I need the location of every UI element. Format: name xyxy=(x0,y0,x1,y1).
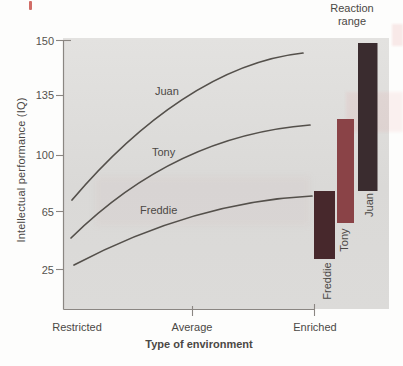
tony-reaction-range-bar xyxy=(337,119,354,223)
tony-curve xyxy=(71,125,310,238)
freddie-curve-label: Freddie xyxy=(140,204,177,216)
reaction-range-title: Reaction range xyxy=(316,2,388,28)
reaction-range-title-line1: Reaction xyxy=(316,2,388,15)
reaction-range-title-line2: range xyxy=(316,15,388,28)
juan-reaction-range-bar xyxy=(358,43,378,191)
freddie-reaction-range-bar xyxy=(314,191,335,259)
juan-curve xyxy=(72,53,303,200)
reaction-range-figure: Reaction range 150 135 100 65 25 Intelle… xyxy=(0,0,403,366)
freddie-bar-label: Freddie xyxy=(321,259,333,303)
chart-canvas xyxy=(0,0,403,366)
tony-curve-label: Tony xyxy=(152,146,175,158)
y-tick-label-100: 100 xyxy=(24,149,54,161)
x-tick-label-enriched: Enriched xyxy=(285,321,345,333)
freddie-curve xyxy=(74,196,312,265)
x-axis-title: Type of environment xyxy=(119,338,279,350)
x-tick-label-average: Average xyxy=(162,321,222,333)
y-tick-label-65: 65 xyxy=(24,206,54,218)
y-tick-label-150: 150 xyxy=(24,35,54,47)
tony-bar-label: Tony xyxy=(338,225,350,255)
y-tick-label-25: 25 xyxy=(24,264,54,276)
y-tick-label-135: 135 xyxy=(24,89,54,101)
juan-bar-label: Juan xyxy=(363,190,375,220)
juan-curve-label: Juan xyxy=(155,85,179,97)
x-tick-label-restricted: Restricted xyxy=(47,321,107,333)
y-axis-title: Intellectual performance (IQ) xyxy=(15,60,27,280)
